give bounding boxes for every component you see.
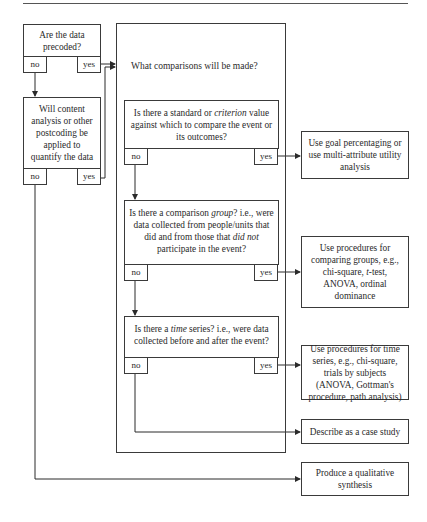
postcoding-question-box: Will content analysis or other postcodin… xyxy=(23,97,101,169)
case-study-box: Describe as a case study xyxy=(301,419,409,444)
criterion-no-tab: no xyxy=(124,148,148,165)
comparing-groups-box: Use procedures for comparing groups, e.g… xyxy=(301,236,409,308)
group-question-box: Is there a comparison group? i.e., were … xyxy=(124,200,279,265)
criterion-question-box: Is there a standard or criterion value a… xyxy=(124,100,279,149)
goal-percentaging-box: Use goal percentaging or use multi-attri… xyxy=(301,131,409,179)
time-question-box: Is there a time series? i.e., were data … xyxy=(124,316,279,358)
postcoding-no-tab: no xyxy=(23,168,47,185)
precoded-question-box: Are the data precoded? xyxy=(23,24,101,57)
precoded-no-tab: no xyxy=(23,56,47,73)
comparing-groups-text: Use procedures for comparing groups, e.g… xyxy=(306,242,404,302)
comparisons-heading: What comparisons will be made? xyxy=(131,61,258,71)
criterion-question: Is there a standard or criterion value a… xyxy=(129,107,274,143)
group-question: Is there a comparison group? i.e., were … xyxy=(129,207,274,255)
precoded-yes-tab: yes xyxy=(77,56,101,73)
group-no-tab: no xyxy=(124,264,148,281)
qualitative-synthesis-box: Produce a qualitative synthesis xyxy=(301,462,409,496)
time-series-text: Use procedures for time series, e.g., ch… xyxy=(304,343,406,403)
goal-percentaging-text: Use goal percentaging or use multi-attri… xyxy=(306,137,404,173)
qualitative-synthesis-text: Produce a qualitative synthesis xyxy=(306,467,404,491)
time-yes-tab: yes xyxy=(254,357,278,374)
time-question: Is there a time series? i.e., were data … xyxy=(129,323,274,347)
postcoding-yes-tab: yes xyxy=(77,168,101,185)
postcoding-question: Will content analysis or other postcodin… xyxy=(27,103,97,163)
time-series-box: Use procedures for time series, e.g., ch… xyxy=(301,345,409,400)
case-study-text: Describe as a case study xyxy=(310,426,400,438)
precoded-question: Are the data precoded? xyxy=(28,29,96,53)
criterion-yes-tab: yes xyxy=(254,148,278,165)
group-yes-tab: yes xyxy=(254,264,278,281)
time-no-tab: no xyxy=(124,357,148,374)
